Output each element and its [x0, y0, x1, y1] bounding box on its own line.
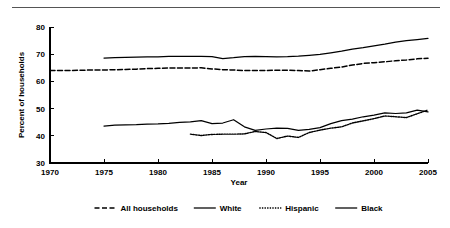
chart-legend: All householdsWhiteHispanicBlack	[95, 204, 384, 213]
legend-label-white[interactable]: White	[220, 204, 242, 213]
y-tick-label: 70	[36, 50, 45, 59]
x-tick-label: 1975	[95, 168, 113, 177]
y-tick-label: 50	[36, 105, 45, 114]
y-axis-tick-labels: 304050607080	[36, 23, 45, 168]
y-tick-label: 40	[36, 132, 45, 141]
series-line-black	[104, 110, 428, 130]
x-tick-label: 1980	[149, 168, 167, 177]
x-axis-tick-labels: 19701975198019851990199520002005	[41, 168, 437, 177]
legend-label-black[interactable]: Black	[361, 204, 383, 213]
series-line-hispanic	[190, 110, 428, 139]
legend-label-hispanic[interactable]: Hispanic	[285, 204, 319, 213]
y-tick-label: 60	[36, 77, 45, 86]
y-tick-label: 80	[36, 23, 45, 32]
data-series-group	[50, 38, 428, 138]
chart-figure: 304050607080 197019751980198519901995200…	[0, 0, 450, 228]
y-tick-label: 30	[36, 159, 45, 168]
x-tick-label: 1995	[311, 168, 329, 177]
line-chart: 304050607080 197019751980198519901995200…	[0, 0, 450, 228]
x-axis-title: Year	[231, 178, 248, 187]
x-tick-label: 2005	[419, 168, 437, 177]
legend-label-all-households[interactable]: All households	[121, 204, 179, 213]
series-line-white	[104, 38, 428, 58]
y-axis-title: Percent of households	[17, 51, 26, 138]
x-tick-label: 2000	[365, 168, 383, 177]
axis-ticks	[50, 27, 428, 163]
x-tick-label: 1970	[41, 168, 59, 177]
series-line-all-households	[50, 58, 428, 71]
x-tick-label: 1990	[257, 168, 275, 177]
x-tick-label: 1985	[203, 168, 221, 177]
chart-axes	[50, 27, 428, 163]
